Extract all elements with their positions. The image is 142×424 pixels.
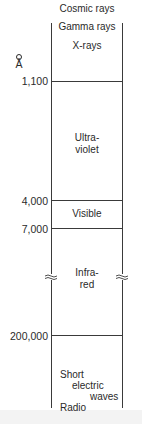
tick-label-7000: 7,000 <box>22 223 48 235</box>
tick-label-200000: 200,000 <box>10 330 48 342</box>
tick-label-1100: 1,100 <box>22 75 48 87</box>
tick-line-4000 <box>51 200 123 201</box>
scale-break-left-icon <box>45 273 57 281</box>
unit-angstrom: Å <box>11 54 27 70</box>
band-infrared-line2: red <box>51 279 123 291</box>
band-ultraviolet-line1: Ultra- <box>51 132 123 144</box>
label-gamma-rays: Gamma rays <box>40 21 134 33</box>
band-visible: Visible <box>51 208 123 220</box>
band-infrared-line1: Infra- <box>51 267 123 279</box>
unit-label: Å <box>11 59 27 70</box>
tick-line-7000 <box>51 228 123 229</box>
label-cosmic-rays: Cosmic rays <box>40 3 134 15</box>
tick-label-4000: 4,000 <box>22 195 48 207</box>
scale-break-right-icon <box>116 273 128 281</box>
label-waves: waves <box>60 391 118 402</box>
label-radio: Radio <box>60 402 118 413</box>
radio-labels: Short electric waves Radio <box>60 369 118 413</box>
tick-line-200000 <box>51 335 123 336</box>
band-ultraviolet-line2: violet <box>51 144 123 156</box>
label-x-rays: X-rays <box>40 40 134 52</box>
label-electric: electric <box>60 380 118 391</box>
tick-line-1100 <box>51 81 123 82</box>
label-short: Short <box>60 369 118 380</box>
